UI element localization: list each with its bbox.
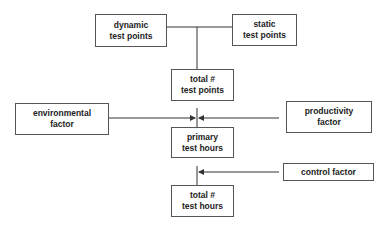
node-primary-test-hours: primary test hours [171,127,234,158]
node-total-test-hours: total # test hours [171,185,234,217]
node-label: control factor [301,167,356,178]
node-label: total # [190,74,215,85]
node-control-factor: control factor [283,163,374,181]
node-label: total # [190,190,215,201]
node-label: test points [110,31,153,42]
node-label: dynamic [114,20,149,31]
node-label: environmental [33,108,91,119]
node-static-test-points: static test points [232,14,297,46]
node-dynamic-test-points: dynamic test points [95,14,167,47]
node-label: productivity [305,106,354,117]
node-total-test-points: total # test points [171,69,234,101]
node-label: test points [181,85,224,96]
node-environmental-factor: environmental factor [15,103,109,135]
node-label: test points [243,30,286,41]
node-label: factor [50,119,74,130]
node-label: static [253,19,275,30]
node-label: primary [187,132,218,143]
node-label: factor [317,117,341,128]
node-label: test hours [182,201,223,212]
node-label: test hours [182,143,223,154]
node-productivity-factor: productivity factor [286,101,372,133]
